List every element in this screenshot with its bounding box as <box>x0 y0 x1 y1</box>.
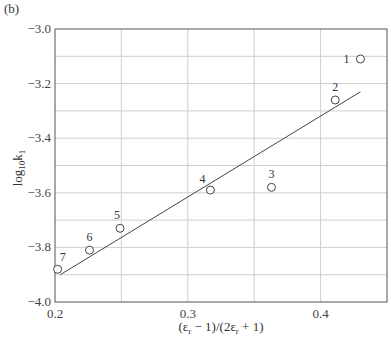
y-tick-label: −3.8 <box>27 239 51 254</box>
data-points: 1234567 <box>54 52 365 273</box>
x-axis-label: (εr − 1)/(2εr + 1) <box>178 319 263 336</box>
data-point-label: 6 <box>87 230 93 244</box>
y-tick-label: −3.0 <box>27 21 51 36</box>
data-point-label: 4 <box>199 172 205 186</box>
data-point-label: 5 <box>114 208 120 222</box>
y-tick-label: −3.4 <box>27 130 51 145</box>
data-point-marker <box>267 183 275 191</box>
y-axis-ticks: −3.0−3.2−3.4−3.6−3.8−4.0 <box>27 21 51 309</box>
data-point-marker <box>54 265 62 273</box>
data-point-label: 7 <box>60 250 66 264</box>
grid-lines <box>55 29 387 302</box>
data-point-label: 1 <box>343 52 349 66</box>
data-point-label: 3 <box>268 167 274 181</box>
x-tick-label: 0.2 <box>47 306 63 321</box>
data-point-marker <box>331 96 339 104</box>
data-point-label: 2 <box>332 80 338 94</box>
y-tick-label: −3.6 <box>27 185 51 200</box>
data-point-marker <box>206 186 214 194</box>
data-point-marker <box>86 246 94 254</box>
y-axis-label: log10k1 <box>10 150 27 187</box>
scatter-chart: (b) −3.0−3.2−3.4−3.6−3.8−4.0 0.20.30.4 1… <box>0 0 391 339</box>
x-tick-label: 0.4 <box>312 306 329 321</box>
panel-label: (b) <box>4 1 19 16</box>
data-point-marker <box>356 55 364 63</box>
data-point-marker <box>116 224 124 232</box>
y-tick-label: −3.2 <box>27 76 51 91</box>
